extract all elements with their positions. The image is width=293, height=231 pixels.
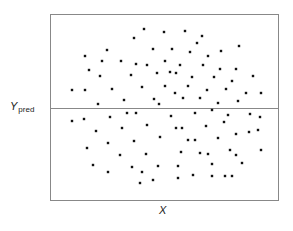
- data-point: [191, 76, 193, 78]
- data-point: [187, 85, 189, 87]
- data-point: [211, 175, 213, 177]
- data-point: [213, 76, 215, 78]
- data-point: [157, 165, 159, 167]
- data-point: [126, 112, 128, 114]
- data-point: [153, 98, 155, 100]
- data-point: [152, 179, 154, 181]
- data-point: [84, 89, 86, 91]
- data-point: [249, 113, 251, 115]
- data-point: [224, 175, 226, 177]
- data-point: [211, 109, 213, 111]
- data-point: [211, 163, 213, 165]
- data-point: [227, 114, 229, 116]
- data-point: [199, 97, 201, 99]
- data-point: [229, 149, 231, 151]
- data-point: [135, 112, 137, 114]
- data-point: [196, 42, 198, 44]
- data-point: [71, 120, 73, 122]
- data-point: [158, 103, 160, 105]
- data-point: [237, 100, 239, 102]
- data-point: [260, 92, 262, 94]
- data-point: [164, 60, 166, 62]
- data-point: [92, 164, 94, 166]
- data-point: [133, 37, 135, 39]
- data-point: [219, 68, 221, 70]
- data-point: [187, 139, 189, 141]
- data-point: [156, 72, 158, 74]
- data-point: [235, 154, 237, 156]
- data-point: [143, 28, 145, 30]
- data-point: [180, 151, 182, 153]
- data-point: [252, 75, 254, 77]
- data-point: [106, 49, 108, 51]
- data-point: [123, 99, 125, 101]
- data-point: [194, 139, 196, 141]
- data-point: [175, 127, 177, 129]
- y-label-main: Y: [10, 100, 17, 112]
- data-point: [182, 97, 184, 99]
- y-axis-label: Ypred: [10, 100, 34, 112]
- data-point: [201, 35, 203, 37]
- data-point: [231, 175, 233, 177]
- data-point: [202, 64, 204, 66]
- data-point: [133, 140, 135, 142]
- data-point: [207, 55, 209, 57]
- data-point: [245, 92, 247, 94]
- data-point: [199, 152, 201, 154]
- data-point: [184, 30, 186, 32]
- data-point: [97, 103, 99, 105]
- data-point: [260, 149, 262, 151]
- data-point: [177, 177, 179, 179]
- data-point: [241, 162, 243, 164]
- data-point: [235, 133, 237, 135]
- data-point: [101, 60, 103, 62]
- data-point: [177, 165, 179, 167]
- data-point: [145, 153, 147, 155]
- data-point: [86, 147, 88, 149]
- data-point: [207, 153, 209, 155]
- x-axis-label: X: [159, 204, 166, 216]
- data-point: [159, 136, 161, 138]
- data-point: [170, 115, 172, 117]
- data-point: [135, 63, 137, 65]
- y-label-subscript: pred: [18, 105, 34, 114]
- data-point: [120, 60, 122, 62]
- data-point: [111, 88, 113, 90]
- data-point: [217, 137, 219, 139]
- data-point: [83, 118, 85, 120]
- data-point: [119, 154, 121, 156]
- data-point: [99, 75, 101, 77]
- data-point: [189, 51, 191, 53]
- data-point: [139, 182, 141, 184]
- data-point: [171, 48, 173, 50]
- data-point: [107, 142, 109, 144]
- data-point: [231, 80, 233, 82]
- data-point: [130, 74, 132, 76]
- data-point: [223, 121, 225, 123]
- data-point: [179, 64, 181, 66]
- data-point: [131, 166, 133, 168]
- data-point: [257, 129, 259, 131]
- data-points: [71, 28, 262, 184]
- data-point: [248, 131, 250, 133]
- data-point: [175, 72, 177, 74]
- data-point: [71, 89, 73, 91]
- data-point: [95, 130, 97, 132]
- data-point: [88, 69, 90, 71]
- data-point: [192, 174, 194, 176]
- data-point: [235, 68, 237, 70]
- data-point: [205, 125, 207, 127]
- data-point: [141, 86, 143, 88]
- data-point: [164, 85, 166, 87]
- data-point: [194, 112, 196, 114]
- data-point: [121, 127, 123, 129]
- data-point: [84, 55, 86, 57]
- data-point: [163, 31, 165, 33]
- plot-frame: [51, 15, 279, 201]
- data-point: [146, 124, 148, 126]
- scatter-plot: [0, 0, 293, 231]
- data-point: [225, 88, 227, 90]
- data-point: [259, 116, 261, 118]
- data-point: [109, 116, 111, 118]
- data-point: [206, 89, 208, 91]
